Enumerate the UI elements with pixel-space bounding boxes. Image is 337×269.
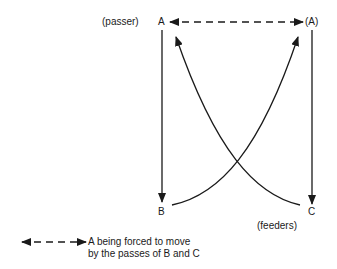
node-b-label: B bbox=[158, 206, 165, 218]
passer-role-label: (passer) bbox=[102, 16, 139, 28]
edge-c-to-a-curve bbox=[176, 37, 300, 205]
node-a-moved-label: (A) bbox=[305, 16, 318, 28]
legend-line-2: by the passes of B and C bbox=[88, 248, 200, 260]
legend-line-1: A being forced to move bbox=[88, 236, 200, 248]
node-c-label: C bbox=[308, 206, 315, 218]
edge-b-to-a-moved-curve bbox=[172, 37, 298, 205]
node-a-label: A bbox=[158, 16, 165, 28]
legend-text: A being forced to move by the passes of … bbox=[88, 236, 200, 260]
feeders-role-label: (feeders) bbox=[257, 220, 297, 232]
